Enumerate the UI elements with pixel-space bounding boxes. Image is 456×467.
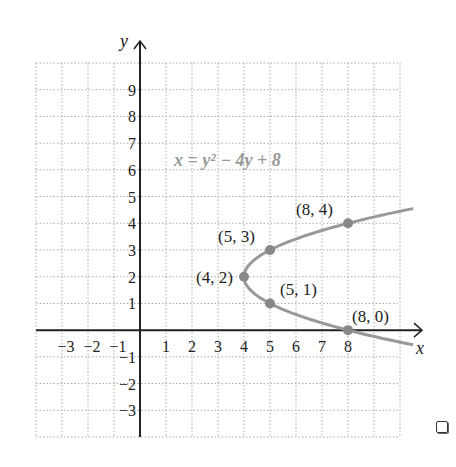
svg-text:1: 1 [128,295,136,312]
svg-text:−2: −2 [119,376,136,393]
svg-text:x = y² − 4y + 8: x = y² − 4y + 8 [173,150,281,170]
end-of-example-square-icon [436,421,448,433]
svg-text:7: 7 [128,135,136,152]
svg-text:y: y [118,31,128,51]
svg-text:−2: −2 [83,338,100,355]
svg-text:8: 8 [128,108,136,125]
svg-text:8: 8 [344,338,352,355]
svg-text:5: 5 [128,189,136,206]
svg-text:7: 7 [318,338,326,355]
svg-text:5: 5 [266,338,274,355]
svg-text:(8, 0): (8, 0) [352,307,389,326]
svg-text:(4, 2): (4, 2) [196,268,233,287]
svg-text:(5, 1): (5, 1) [280,280,317,299]
svg-text:−1: −1 [119,349,136,366]
svg-text:6: 6 [128,162,136,179]
svg-text:3: 3 [128,242,136,259]
svg-text:9: 9 [128,82,136,99]
svg-text:(8, 4): (8, 4) [296,200,333,219]
svg-text:1: 1 [162,338,170,355]
svg-text:4: 4 [240,338,248,355]
svg-text:−3: −3 [119,402,136,419]
parabola-chart: yx (4, 2)(5, 3)(5, 1)(8, 4)(8, 0) −3−2−1… [0,0,456,467]
svg-text:−3: −3 [57,338,74,355]
svg-text:6: 6 [292,338,300,355]
svg-text:x: x [415,338,424,358]
svg-text:2: 2 [128,269,136,286]
grid [36,63,400,437]
svg-text:2: 2 [188,338,196,355]
svg-text:4: 4 [128,215,136,232]
svg-text:(5, 3): (5, 3) [218,227,255,246]
svg-text:3: 3 [214,338,222,355]
